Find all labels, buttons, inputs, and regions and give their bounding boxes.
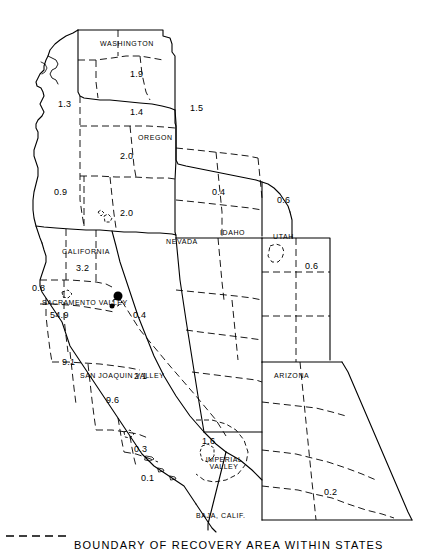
state-label-washington: WASHINGTON [100,40,154,47]
value-label: 0.2 [324,488,337,497]
state-label-baja-calif: BAJA, CALIF. [196,512,246,519]
map-figure: WASHINGTON OREGON CALIFORNIA NEVADA IDAH… [0,0,438,559]
value-label: 1.9 [130,70,143,79]
value-label: 0.3 [134,445,147,454]
region-label-san-joaquin-valley: SAN JOAQUIN VALLEY [80,372,164,379]
state-label-nevada: NEVADA [166,238,198,245]
state-label-california: CALIFORNIA [62,248,110,255]
value-label: 0.4 [212,188,225,197]
state-label-utah: UTAH [273,233,294,240]
value-label: 0.6 [305,262,318,271]
value-label: 0.9 [54,188,67,197]
region-label-sacramento-valley: SACRAMENTO VALLEY [42,299,128,306]
value-label: 2.1 [134,372,147,381]
value-label: 1.3 [58,100,71,109]
recovery-area-boundaries [40,30,394,520]
state-label-arizona: ARIZONA [274,372,309,379]
value-label: 0.1 [141,474,154,483]
value-label: 2.0 [120,209,133,218]
value-label: 9.6 [106,396,119,405]
value-label: 1.4 [130,108,143,117]
map-canvas [0,0,438,559]
value-label: 54.9 [50,311,69,320]
value-label: 1.5 [190,104,203,113]
region-label-imperial-valley: IMPERIAL VALLEY [205,456,243,470]
value-label: 9.1 [62,358,75,367]
value-label: 3.2 [76,264,89,273]
state-label-idaho: IDAHO [220,229,245,236]
value-label: 0.6 [277,196,290,205]
legend-label: BOUNDARY OF RECOVERY AREA WITHIN STATES [74,539,384,551]
state-label-oregon: OREGON [138,134,173,141]
value-label: 0.4 [133,311,146,320]
value-label: 0.8 [32,284,45,293]
value-label: 1.6 [202,437,215,446]
value-label: 2.0 [120,152,133,161]
